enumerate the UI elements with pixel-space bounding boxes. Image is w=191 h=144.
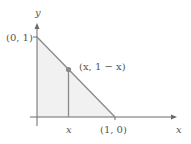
x-intercept-label: (1, 0) [100,124,127,135]
y-axis-label: y [34,7,41,18]
curve-point-dot [66,67,71,72]
y-axis-arrow-icon [35,23,40,29]
y-intercept-label: (0, 1) [6,32,33,43]
x-axis-arrow-icon [171,115,177,120]
x-axis-label: x [176,124,182,135]
x-tick-label: x [66,124,72,135]
triangle-diagram: y x (0, 1) (1, 0) (x, 1 − x) x [0,0,191,144]
curve-point-label: (x, 1 − x) [79,61,126,72]
curve-point-label-text: (x, 1 − x) [79,61,126,72]
